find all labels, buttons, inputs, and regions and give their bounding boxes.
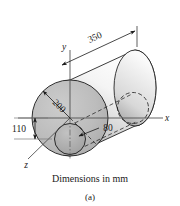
figure-container: x y z 350 200 80 <box>0 0 180 206</box>
z-axis-label: z <box>23 160 28 170</box>
figure-subcaption: (a) <box>85 192 95 202</box>
cylinder-diagram: x y z 350 200 80 <box>0 0 180 206</box>
dimension-350-label: 350 <box>86 30 103 45</box>
cylinder-far-end-cap <box>114 50 156 126</box>
y-axis-label: y <box>61 42 67 52</box>
x-axis-label: x <box>164 113 170 123</box>
dimension-80-label: 80 <box>103 123 113 133</box>
dimension-110-label: 110 <box>12 124 26 134</box>
figure-caption: Dimensions in mm <box>52 173 128 184</box>
